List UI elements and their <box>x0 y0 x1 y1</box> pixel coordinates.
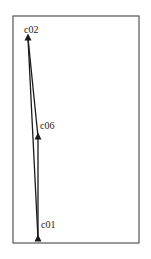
diagram-figure: c01 c02 c06 <box>0 0 151 259</box>
point-label-c06: c06 <box>40 120 54 131</box>
plot-frame <box>13 16 139 243</box>
point-label-c02: c02 <box>24 24 38 35</box>
point-label-c01: c01 <box>41 219 55 230</box>
